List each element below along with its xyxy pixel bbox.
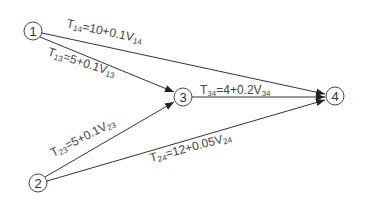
edge-label-1-4: T14=10+0.1V14 <box>65 16 144 47</box>
node-1: 1 <box>24 22 42 40</box>
node-3: 3 <box>174 88 192 106</box>
network-diagram: T14=10+0.1V14 T13=5+0.1V13 T34=4+0.2V34 … <box>0 0 367 204</box>
node-3-label: 3 <box>179 90 186 105</box>
edge-label-1-3: T13=5+0.1V13 <box>46 45 118 81</box>
node-4: 4 <box>326 87 344 105</box>
node-2-label: 2 <box>34 176 41 191</box>
node-4-label: 4 <box>331 89 338 104</box>
edge-label-3-4: T34=4+0.2V34 <box>200 83 271 98</box>
node-1-label: 1 <box>29 24 36 39</box>
edge-label-2-3: T23=5+0.1V23 <box>48 115 118 161</box>
node-2: 2 <box>29 174 47 192</box>
